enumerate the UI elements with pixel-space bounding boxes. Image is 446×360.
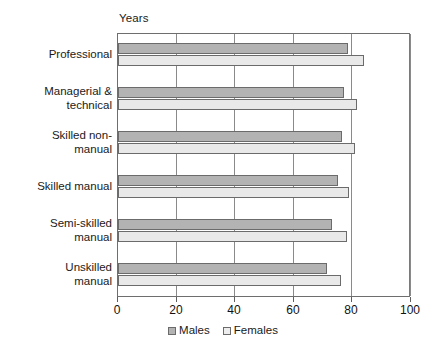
legend-swatch-icon	[223, 327, 231, 335]
category-label-line: Professional	[0, 47, 112, 62]
x-tick-label: 80	[331, 303, 371, 318]
x-tick-label: 20	[156, 303, 196, 318]
category-label: Skilled manual	[0, 179, 112, 194]
bar-females	[118, 187, 349, 198]
bar-females	[118, 143, 355, 154]
x-tick-label: 0	[97, 303, 137, 318]
bar-males	[118, 43, 348, 54]
x-tick-label: 100	[390, 303, 430, 318]
bar-males	[118, 131, 342, 142]
bar-group	[118, 34, 409, 78]
category-label: Skilled non-manual	[0, 128, 112, 157]
legend-entry-males[interactable]: Males	[168, 324, 210, 337]
bar-females	[118, 275, 341, 286]
x-tick-mark	[176, 297, 177, 302]
x-tick-mark	[351, 297, 352, 302]
axis-unit-label: Years	[119, 11, 149, 25]
plot-area	[117, 33, 410, 297]
x-tick-mark	[117, 297, 118, 302]
category-label-line: Skilled non-	[0, 128, 112, 143]
category-label-line: Unskilled	[0, 260, 112, 275]
category-label-line: Managerial &	[0, 84, 112, 99]
bar-group	[118, 166, 409, 210]
x-tick-mark	[410, 297, 411, 302]
category-label-line: Semi-skilled	[0, 216, 112, 231]
category-label: Unskilledmanual	[0, 260, 112, 289]
bar-males	[118, 175, 338, 186]
category-label-line: Skilled manual	[0, 179, 112, 194]
category-label: Managerial &technical	[0, 84, 112, 113]
bar-group	[118, 78, 409, 122]
category-label-line: manual	[0, 230, 112, 245]
bar-group	[118, 210, 409, 254]
gridline	[410, 34, 411, 296]
bar-females	[118, 55, 364, 66]
x-tick-mark	[293, 297, 294, 302]
bar-group	[118, 122, 409, 166]
category-label: Semi-skilledmanual	[0, 216, 112, 245]
bar-females	[118, 99, 357, 110]
category-label-line: technical	[0, 98, 112, 113]
chart-legend: MalesFemales	[0, 324, 446, 337]
category-label: Professional	[0, 47, 112, 62]
bar-group	[118, 254, 409, 298]
category-label-line: manual	[0, 274, 112, 289]
bar-females	[118, 231, 347, 242]
legend-swatch-icon	[168, 327, 176, 335]
category-label-line: manual	[0, 142, 112, 157]
legend-label: Males	[179, 324, 210, 337]
bar-males	[118, 263, 327, 274]
bar-males	[118, 87, 344, 98]
x-tick-mark	[234, 297, 235, 302]
x-tick-label: 60	[273, 303, 313, 318]
x-tick-label: 40	[214, 303, 254, 318]
legend-label: Females	[234, 324, 278, 337]
bar-chart: Years ProfessionalManagerial &technicalS…	[0, 0, 446, 360]
bar-males	[118, 219, 332, 230]
legend-entry-females[interactable]: Females	[223, 324, 278, 337]
